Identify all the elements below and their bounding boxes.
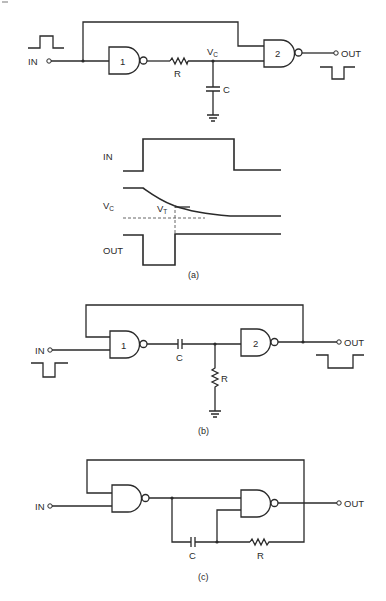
ground-icon — [207, 115, 219, 121]
output-label: OUT — [344, 498, 364, 509]
input-terminal — [48, 504, 52, 508]
output-terminal — [334, 51, 338, 55]
nand-gate-2 — [241, 490, 271, 517]
input-terminal — [48, 348, 52, 352]
timing-in-label: IN — [103, 151, 113, 162]
node-vc-label: VC — [207, 46, 218, 58]
resistor-icon — [212, 344, 218, 411]
nand-gate-1 — [112, 485, 142, 512]
timing-out-waveform — [123, 234, 281, 265]
timing-vt-label: VT — [157, 203, 167, 215]
output-terminal — [337, 340, 341, 344]
ground-icon — [209, 411, 221, 417]
input-label: IN — [35, 345, 45, 356]
circuit-figure: IN 1 R VC C 2 OUT IN VC — [0, 0, 386, 601]
timing-out-label: OUT — [103, 245, 123, 256]
inverter-bubble — [271, 500, 278, 507]
input-pulse-icon — [31, 363, 68, 377]
resistor-label: R — [174, 68, 181, 79]
capacitor-icon — [147, 339, 241, 349]
resistor-icon — [170, 58, 188, 64]
timing-in-waveform — [123, 139, 281, 171]
gate1-label: 1 — [121, 340, 126, 351]
panel-c-circuit: IN C R OUT (c) — [35, 460, 364, 582]
gate2-label: 2 — [275, 48, 280, 59]
caption-a: (a) — [188, 270, 199, 280]
output-label: OUT — [341, 48, 361, 59]
input-label: IN — [35, 501, 45, 512]
timing-vc-label: VC — [103, 200, 114, 212]
panel-a-circuit: IN 1 R VC C 2 OUT — [28, 22, 361, 121]
resistor-label: R — [257, 550, 264, 561]
inverter-bubble — [142, 495, 149, 502]
capacitor-label: C — [176, 352, 183, 363]
panel-b-circuit: IN 1 C R 2 OUT (b) — [31, 305, 364, 436]
capacitor-icon — [206, 61, 220, 115]
capacitor-icon — [172, 498, 250, 547]
output-pulse-icon — [316, 355, 364, 368]
inverter-bubble — [271, 339, 278, 346]
panel-a-timing: IN VC VT OUT (a) — [103, 139, 281, 280]
inverter-bubble — [140, 57, 147, 64]
timing-vc-waveform — [123, 188, 281, 216]
resistor-icon — [250, 539, 270, 545]
gate1-label: 1 — [120, 56, 125, 67]
input-pulse-icon — [28, 36, 64, 48]
output-terminal — [337, 501, 341, 505]
output-pulse-icon — [320, 67, 355, 79]
caption-c: (c) — [198, 572, 209, 582]
wire — [217, 510, 241, 542]
input-terminal — [47, 59, 51, 63]
caption-b: (b) — [198, 426, 209, 436]
resistor-label: R — [221, 373, 228, 384]
capacitor-label: C — [189, 550, 196, 561]
input-label: IN — [28, 56, 38, 67]
capacitor-label: C — [223, 84, 230, 95]
output-label: OUT — [344, 337, 364, 348]
junction-dot — [301, 340, 304, 343]
gate2-label: 2 — [253, 338, 258, 349]
inverter-bubble — [295, 49, 302, 56]
scan-mark — [2, 1, 8, 3]
inverter-bubble — [140, 341, 147, 348]
